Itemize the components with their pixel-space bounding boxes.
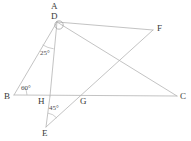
angle-at-E-arc <box>48 113 57 118</box>
segment-D-C <box>57 22 177 96</box>
geometry-svg <box>0 0 191 141</box>
vertex-label-B: B <box>4 92 10 101</box>
vertex-label-D: D <box>51 12 58 21</box>
vertex-label-F: F <box>157 24 162 33</box>
segment-E-F <box>46 30 153 127</box>
angle-at-E-label: 45° <box>49 105 59 112</box>
vertex-label-H: H <box>38 97 45 106</box>
segment-D-F <box>57 22 153 30</box>
angle-at-B-label: 60° <box>21 85 31 92</box>
segment-D-H <box>50 22 57 96</box>
vertex-label-C: C <box>180 92 186 101</box>
vertex-label-A: A <box>51 2 58 11</box>
vertex-label-G: G <box>80 97 87 106</box>
geometry-figure-canvas: ADFBHGCE 60°25°45° <box>0 0 191 141</box>
vertex-label-E: E <box>42 129 48 138</box>
segments-group <box>14 22 177 127</box>
angle-at-D-label: 25° <box>40 50 50 57</box>
